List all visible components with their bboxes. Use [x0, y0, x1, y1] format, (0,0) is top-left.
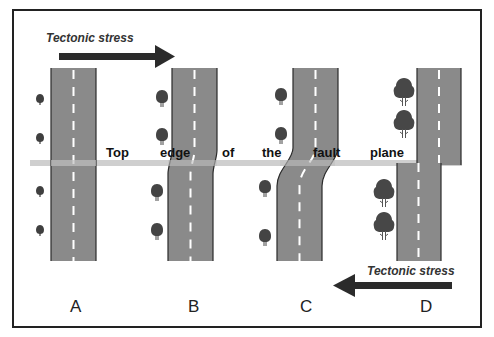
- road-d-lower: [397, 163, 441, 261]
- stress-arrow-right: [59, 45, 175, 68]
- panel-letter-d: D: [420, 297, 432, 317]
- panel-letter-c: C: [300, 297, 312, 317]
- fault-caption-word: edge: [160, 145, 190, 160]
- fault-caption-word: fault: [313, 145, 340, 160]
- road-a: [51, 68, 96, 261]
- road-b: [168, 68, 217, 261]
- fault-caption-word: Top: [106, 145, 129, 160]
- panel-letter-a: A: [70, 297, 81, 317]
- fault-caption-word: the: [262, 145, 282, 160]
- fault-caption-word: plane: [370, 145, 404, 160]
- panel-letter-b: B: [188, 297, 199, 317]
- stress-label-bottom: Tectonic stress: [367, 264, 455, 278]
- fault-diagram-scene: [0, 0, 494, 337]
- road-d-upper: [417, 68, 461, 165]
- fault-caption-word: of: [222, 145, 234, 160]
- stress-label-top: Tectonic stress: [46, 31, 134, 45]
